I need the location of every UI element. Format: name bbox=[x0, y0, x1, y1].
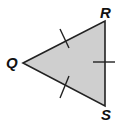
triangle-diagram: R Q S bbox=[0, 0, 123, 123]
triangle-qrs bbox=[23, 21, 105, 106]
vertex-label-r: R bbox=[100, 4, 111, 21]
vertex-label-q: Q bbox=[6, 54, 18, 71]
vertex-label-s: S bbox=[101, 106, 111, 123]
